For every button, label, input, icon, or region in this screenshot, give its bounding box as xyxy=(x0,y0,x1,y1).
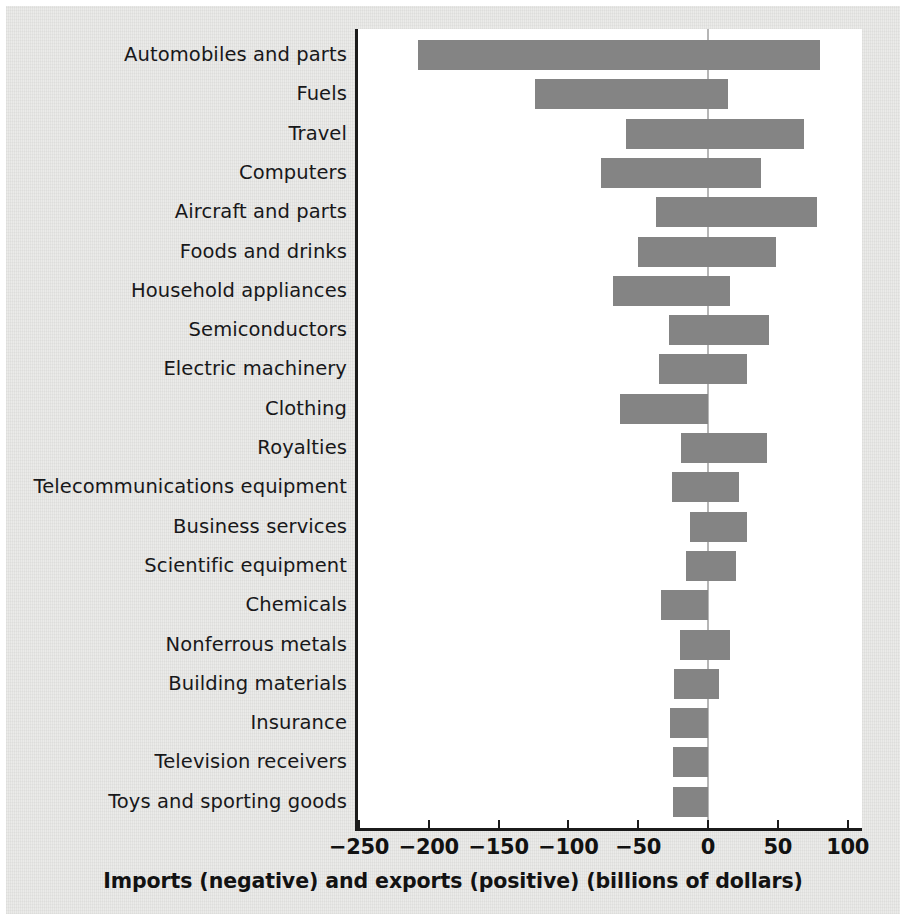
x-tick xyxy=(637,820,639,831)
x-tick-label: −100 xyxy=(528,835,608,859)
x-tick-label: −250 xyxy=(319,835,399,859)
plot-area xyxy=(357,29,862,830)
bar xyxy=(638,237,776,267)
category-label: Toys and sporting goods xyxy=(0,792,347,812)
x-tick xyxy=(498,820,500,831)
category-label: Royalties xyxy=(0,438,347,458)
horizontal-bar-chart: Automobiles and partsFuelsTravelComputer… xyxy=(0,0,906,920)
bar xyxy=(659,354,747,384)
bar xyxy=(674,669,719,699)
x-tick xyxy=(358,820,360,831)
category-label: Television receivers xyxy=(0,752,347,772)
bar xyxy=(690,512,747,542)
category-label: Fuels xyxy=(0,84,347,104)
chart-page: Automobiles and partsFuelsTravelComputer… xyxy=(0,0,906,920)
x-tick xyxy=(567,820,569,831)
category-label: Scientific equipment xyxy=(0,556,347,576)
bar xyxy=(620,394,708,424)
bar xyxy=(680,630,730,660)
category-label: Nonferrous metals xyxy=(0,635,347,655)
x-tick-label: −200 xyxy=(389,835,469,859)
x-tick-label: 0 xyxy=(668,835,748,859)
x-tick-label: −150 xyxy=(459,835,539,859)
category-label: Electric machinery xyxy=(0,359,347,379)
bar xyxy=(669,315,770,345)
bar xyxy=(601,158,762,188)
bar xyxy=(418,40,820,70)
category-label: Insurance xyxy=(0,713,347,733)
x-tick xyxy=(428,820,430,831)
category-label: Chemicals xyxy=(0,595,347,615)
bar xyxy=(661,590,708,620)
x-tick xyxy=(777,820,779,831)
x-tick-label: 50 xyxy=(738,835,818,859)
x-tick-label: 100 xyxy=(808,835,888,859)
x-tick xyxy=(707,820,709,831)
category-label: Clothing xyxy=(0,399,347,419)
bar xyxy=(670,708,708,738)
x-axis-title: Imports (negative) and exports (positive… xyxy=(0,869,906,893)
bar xyxy=(626,119,805,149)
bar xyxy=(681,433,766,463)
category-label-group: Automobiles and partsFuelsTravelComputer… xyxy=(0,29,347,830)
bar xyxy=(613,276,730,306)
x-tick xyxy=(847,820,849,831)
bar xyxy=(673,747,708,777)
category-label: Computers xyxy=(0,163,347,183)
bar xyxy=(686,551,736,581)
category-label: Telecommunications equipment xyxy=(0,477,347,497)
category-label: Household appliances xyxy=(0,281,347,301)
x-axis-line xyxy=(355,828,862,831)
y-axis-line xyxy=(355,29,358,830)
category-label: Business services xyxy=(0,517,347,537)
category-label: Semiconductors xyxy=(0,320,347,340)
category-label: Aircraft and parts xyxy=(0,202,347,222)
bar xyxy=(673,787,708,817)
category-label: Travel xyxy=(0,124,347,144)
bar xyxy=(672,472,739,502)
category-label: Automobiles and parts xyxy=(0,45,347,65)
x-tick-label: −50 xyxy=(598,835,678,859)
category-label: Building materials xyxy=(0,674,347,694)
bar xyxy=(656,197,817,227)
category-label: Foods and drinks xyxy=(0,242,347,262)
bar xyxy=(535,79,728,109)
